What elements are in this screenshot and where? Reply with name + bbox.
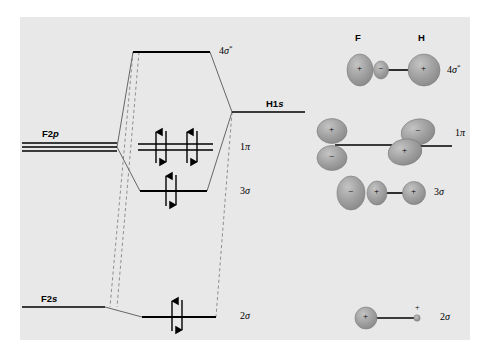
- sign-4sigma-star-1: −: [378, 64, 383, 73]
- label-h1s: H1s: [266, 99, 283, 109]
- header-f: F: [355, 33, 361, 43]
- correlation-lines-dashed: [110, 52, 232, 317]
- label-mo-4sigma-star: 4σ*: [219, 45, 232, 56]
- picture-label-2sigma: 2σ: [440, 312, 450, 322]
- level-f2p: [22, 143, 117, 151]
- level-1pi: [138, 144, 213, 150]
- sign-3sigma-1: +: [374, 187, 379, 196]
- electrons-1pi: [156, 131, 197, 163]
- header-h: H: [418, 33, 425, 43]
- picture-label-3sigma: 3σ: [434, 187, 444, 197]
- sign-1pi-3: +: [402, 146, 407, 155]
- label-mo-3sigma: 3σ: [240, 186, 250, 196]
- sign-1pi-1: −: [329, 152, 334, 161]
- sign-1pi-2: −: [415, 126, 420, 135]
- sign-4sigma-star-2: +: [421, 64, 426, 73]
- electrons-2sigma: [172, 300, 182, 331]
- label-f2s: F2s: [41, 294, 57, 304]
- picture-label-4sigma-star: 4σ*: [447, 64, 460, 75]
- picture-label-1pi: 1π: [455, 128, 465, 138]
- sign-3sigma-0: −: [348, 187, 353, 196]
- label-mo-2sigma: 2σ: [240, 311, 250, 321]
- orbital-picture-1pi: [317, 116, 452, 171]
- diagram-canvas: [0, 0, 485, 358]
- label-mo-1pi: 1π: [240, 142, 250, 152]
- sign-1pi-0: +: [329, 125, 334, 134]
- sign-2sigma-0: +: [363, 312, 368, 321]
- label-f2p: F2p: [42, 129, 59, 139]
- sign-4sigma-star-0: +: [357, 64, 362, 73]
- sign-3sigma-2: +: [411, 187, 416, 196]
- correlation-lines-solid: [105, 52, 232, 317]
- sign-2sigma-1: +: [415, 304, 420, 312]
- mo-diagram-figure: F2p F2s H1s 4σ* 1π 3σ 2σ F H 4σ* 1π 3σ 2…: [0, 0, 485, 358]
